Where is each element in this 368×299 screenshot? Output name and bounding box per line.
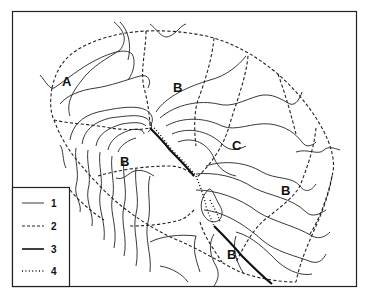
region-label-b-right: B [281, 183, 290, 198]
legend: 1 2 3 4 [13, 188, 70, 287]
region-label-a: A [62, 74, 72, 89]
contour-lines [40, 22, 340, 286]
region-label-c: C [232, 138, 242, 153]
region-labels: A B C B B B [62, 74, 290, 262]
catchment-diagram: A B C B B B 1 2 3 4 [0, 0, 368, 299]
legend-label-4: 4 [51, 266, 57, 277]
region-label-b-left: B [120, 154, 129, 169]
legend-label-3: 3 [51, 244, 57, 255]
region-label-b-upper: B [173, 80, 182, 95]
region-label-b-lower: B [227, 247, 236, 262]
main-channel [150, 128, 272, 284]
legend-box [13, 188, 70, 287]
legend-label-2: 2 [51, 221, 57, 232]
legend-label-1: 1 [51, 198, 57, 209]
